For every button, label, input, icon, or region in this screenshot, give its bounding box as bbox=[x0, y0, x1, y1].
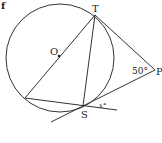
label-s: S bbox=[81, 109, 88, 120]
label-p: P bbox=[156, 66, 162, 77]
angle-p-label: 50° bbox=[132, 66, 148, 76]
geometry-diagram: f T O P S 50° x° bbox=[0, 0, 162, 143]
angle-x-label: x° bbox=[99, 102, 106, 110]
circle bbox=[6, 4, 114, 112]
figure-marker: f bbox=[1, 0, 6, 11]
label-o: O bbox=[50, 46, 58, 57]
label-t: T bbox=[92, 3, 99, 14]
tangent-ps bbox=[51, 70, 155, 122]
tangent-tp bbox=[95, 15, 155, 70]
chord-ts bbox=[83, 15, 95, 106]
